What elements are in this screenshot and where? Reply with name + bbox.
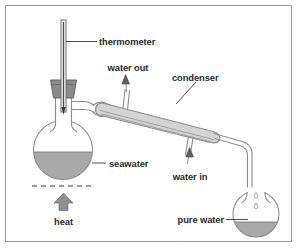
delivery-tube-outer [214,134,252,188]
water-out-arrow-head [122,75,130,85]
label-heat: heat [54,216,73,227]
label-water-in: water in [172,171,208,182]
side-arm-bottom [72,110,95,113]
neck-bulb-join [56,118,71,124]
distillation-diagram: thermometer water out condenser seawater… [0,0,299,249]
label-thermometer: thermometer [99,36,156,47]
outlet-wall-left [123,90,125,109]
condenser [95,103,220,143]
flask-neck-right [72,97,78,132]
side-arm-top [72,102,95,106]
heat-arrow [54,193,73,211]
label-water-out: water out [107,62,149,73]
outlet-wall-right [128,91,130,110]
heat-source [32,186,95,211]
flask-side-arm [72,102,95,113]
thermometer [61,20,66,115]
leader-condenser [176,82,196,104]
label-condenser: condenser [172,72,219,83]
distillation-figure: thermometer water out condenser seawater… [0,0,299,249]
condenser-water-inlet [186,137,194,165]
receiving-flask [231,190,281,244]
delivery-tube-inner [215,139,248,188]
delivery-tube [214,134,252,188]
flask-neck-left [50,97,56,132]
pure-water-liquid [231,222,281,244]
condenser-inner-tube-upper [100,111,214,140]
label-seawater: seawater [109,158,149,169]
condenser-water-outlet [122,75,130,110]
condenser-jacket [95,103,220,143]
droplet-lower [254,203,258,209]
label-pure-water: pure water [178,214,225,225]
